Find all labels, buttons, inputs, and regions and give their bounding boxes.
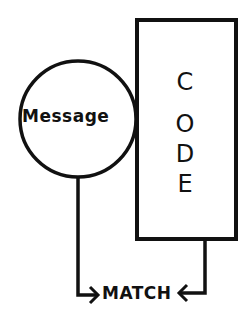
diagram-canvas bbox=[0, 0, 249, 322]
match-label: MATCH bbox=[102, 283, 172, 303]
message-to-match-connector bbox=[78, 177, 97, 295]
code-to-match-connector bbox=[180, 239, 205, 293]
code-letter-c: C bbox=[170, 68, 200, 96]
code-letter-e: E bbox=[170, 170, 200, 198]
code-letter-d: D bbox=[170, 140, 200, 168]
code-letter-o: O bbox=[170, 110, 200, 138]
message-label: Message bbox=[22, 106, 109, 126]
